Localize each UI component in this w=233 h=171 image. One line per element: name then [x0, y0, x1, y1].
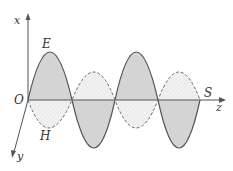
z-axis-label: z [215, 101, 222, 114]
x-axis-label: x [14, 14, 21, 27]
h-field-label: H [39, 129, 51, 143]
e-field-label: E [41, 37, 51, 51]
em-wave-diagram: x E O H y S z [0, 0, 233, 171]
poynting-label: S [204, 86, 212, 100]
origin-label: O [14, 93, 24, 107]
y-axis-label: y [16, 150, 24, 163]
